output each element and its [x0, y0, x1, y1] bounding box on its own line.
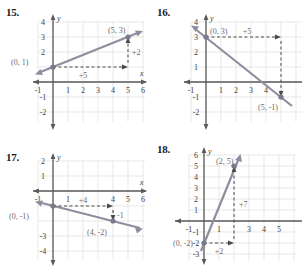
x-tick-neg1: -1 — [35, 86, 42, 95]
y-tick-neg4: -4 — [40, 247, 47, 256]
y-tick-neg3: -3 — [40, 232, 47, 241]
x-axis-arrow-left — [184, 80, 190, 85]
x-axis-arrow-left — [175, 219, 181, 224]
y-tick-2: 2 — [194, 48, 198, 57]
y-tick-4: 4 — [194, 18, 198, 27]
y-axis-arrow-up — [51, 14, 56, 20]
point-5-neg1 — [278, 94, 283, 99]
x-tick-3: 3 — [96, 86, 100, 95]
y-tick-3: 3 — [194, 33, 198, 42]
x-axis-arrow-left — [33, 189, 39, 194]
point-0-1 — [50, 64, 55, 69]
y-tick-1: 1 — [41, 172, 45, 181]
y-axis-arrow-down — [202, 259, 207, 265]
run-arrow — [275, 35, 281, 40]
x-tick-3: 3 — [247, 225, 251, 234]
x-axis-arrow-right — [141, 80, 147, 85]
y-axis-label: y — [56, 153, 61, 162]
point-label-5-3: (5, 3) — [108, 26, 126, 35]
x-tick-2: 2 — [81, 86, 85, 95]
x-tick-4: 4 — [111, 86, 115, 95]
y-tick-5: 5 — [194, 162, 198, 171]
line-arrow-right — [135, 228, 143, 234]
y-axis-arrow-down — [204, 124, 209, 130]
run-label: +5 — [79, 71, 88, 80]
problem-16: 16. — [151, 0, 302, 133]
point-4-neg2 — [110, 218, 115, 223]
x-tick-5: 5 — [126, 86, 130, 95]
x-axis-label: x — [139, 178, 144, 187]
x-tick-1: 1 — [66, 86, 70, 95]
problem-15: 15. — [0, 0, 151, 133]
point-0-neg1 — [50, 203, 55, 208]
rise-label: +7 — [239, 200, 248, 209]
point-label-0-neg2: (0, -2) — [173, 239, 193, 248]
x-tick-2: 2 — [234, 86, 238, 95]
y-tick-6: 6 — [194, 151, 198, 160]
x-tick-5: 5 — [277, 225, 281, 234]
x-tick-6: 6 — [141, 195, 145, 204]
graph-15: x y 4 3 2 -1 -2 -1 1 2 3 4 5 6 — [0, 0, 151, 133]
y-axis-arrow-up — [202, 147, 207, 153]
axes-17 — [33, 155, 146, 264]
x-tick-1: 1 — [219, 86, 223, 95]
y-tick-1: 1 — [194, 206, 198, 215]
y-tick-3: 3 — [194, 184, 198, 193]
point-label-5-neg1: (5, -1) — [258, 103, 278, 112]
point-0-3 — [203, 34, 208, 39]
y-tick-1: 1 — [194, 63, 198, 72]
y-tick-2: 2 — [41, 48, 45, 57]
graph-18: y 6 5 4 3 2 1 -1 -2 -3 -1 1 3 4 5 — [151, 133, 302, 266]
y-tick-neg3: -3 — [193, 250, 200, 259]
y-axis-arrow-up — [51, 153, 56, 159]
y-axis-arrow-up — [204, 14, 209, 20]
x-tick-6: 6 — [141, 86, 145, 95]
run-arrow — [122, 65, 128, 70]
point-label-0-3: (0, 3) — [210, 27, 228, 36]
run-arrow — [228, 241, 234, 246]
y-tick-neg2: -2 — [193, 239, 200, 248]
rise-label: +2 — [132, 48, 141, 57]
x-tick-4: 4 — [111, 195, 115, 204]
point-0-neg2 — [201, 240, 206, 245]
y-tick-neg2: -2 — [40, 108, 47, 117]
y-axis-arrow-down — [51, 260, 56, 266]
x-axis-label: x — [139, 69, 144, 78]
x-tick-1: 1 — [217, 225, 221, 234]
problem-18: 18. — [151, 133, 302, 266]
y-tick-neg2: -2 — [193, 108, 200, 117]
point-label-2-5: (2, 5) — [216, 157, 234, 166]
x-tick-neg1: -1 — [188, 86, 195, 95]
point-label-0-neg1: (0, -1) — [9, 212, 29, 221]
y-tick-2: 2 — [41, 157, 45, 166]
run-label: +2 — [215, 247, 224, 256]
x-tick-4: 4 — [262, 225, 266, 234]
x-tick-neg1: -1 — [186, 225, 193, 234]
point-label-4-neg2: (4, -2) — [87, 228, 107, 237]
problem-17: 17. — [0, 133, 151, 266]
x-tick-5: 5 — [126, 195, 130, 204]
y-tick-4: 4 — [194, 173, 198, 182]
y-tick-3: 3 — [41, 33, 45, 42]
point-5-3 — [125, 34, 130, 39]
point-label-0-1: (0, 1) — [11, 58, 29, 67]
x-tick-3: 3 — [249, 86, 253, 95]
x-axis-arrow-left — [33, 80, 39, 85]
y-tick-neg1: -1 — [193, 228, 200, 237]
x-axis-arrow-right — [141, 189, 147, 194]
exercise-page: 15. — [0, 0, 302, 266]
y-axis-label: y — [56, 14, 61, 23]
axes-15 — [33, 16, 146, 128]
rise-label: -1 — [117, 211, 124, 220]
y-axis-arrow-down — [51, 124, 56, 130]
y-axis-label: y — [209, 14, 214, 23]
run-label: +5 — [243, 27, 252, 36]
graph-17: x y 2 1 -3 -4 -1 1 4 5 6 (0, -1) — [0, 133, 151, 266]
x-tick-1: 1 — [66, 195, 70, 204]
graph-16: y 4 3 2 1 -1 -2 -1 1 2 3 4 — [151, 0, 302, 133]
y-axis-label: y — [207, 147, 212, 156]
y-tick-2: 2 — [194, 195, 198, 204]
run-label: +4 — [79, 196, 88, 205]
gridlines-17 — [38, 161, 145, 259]
run-arrow — [107, 204, 113, 209]
